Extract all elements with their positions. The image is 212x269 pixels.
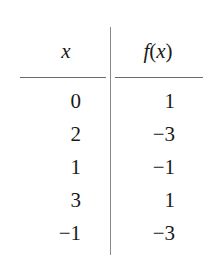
cell-x: 3: [30, 187, 81, 213]
header-rule-right: [115, 77, 203, 78]
cell-x: 2: [30, 121, 81, 147]
cell-x: 0: [30, 88, 81, 114]
cell-fx: −1: [120, 154, 175, 180]
cell-fx: −3: [120, 121, 175, 147]
header-fx-close: ): [166, 39, 173, 63]
cell-fx: 1: [120, 187, 175, 213]
cell-fx: −3: [120, 220, 175, 246]
header-x: x: [56, 38, 76, 64]
header-rule-left: [20, 77, 106, 78]
cell-x: 1: [30, 154, 81, 180]
cell-fx: 1: [120, 88, 175, 114]
header-fx-arg: x: [156, 39, 165, 63]
header-fx: f(x): [128, 38, 188, 64]
cell-x: −1: [30, 220, 81, 246]
column-divider: [110, 27, 111, 255]
